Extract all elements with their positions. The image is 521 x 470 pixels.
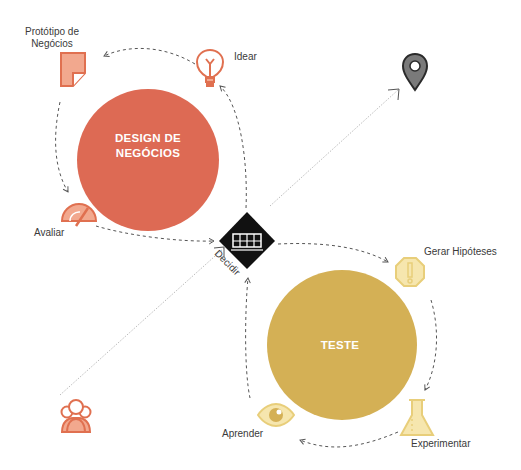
gauge-icon[interactable] (62, 204, 96, 226)
location-pin-icon[interactable] (403, 54, 427, 90)
learn-label: Aprender (222, 428, 264, 439)
lightbulb-icon[interactable] (197, 50, 223, 86)
test-circle: TESTE (267, 270, 417, 420)
hypothesize-label: Gerar Hipóteses (424, 246, 497, 257)
assess-label: Avaliar (34, 227, 65, 238)
flask-icon[interactable] (401, 400, 433, 435)
warning-octagon-icon[interactable] (396, 258, 424, 286)
ideate-label: Idear (234, 51, 257, 62)
business-design-circle: DESIGN DE NEGÓCIOS (77, 89, 219, 231)
prototype-label-line2: Negócios (31, 38, 73, 49)
business-design-title-line1: DESIGN DE (115, 132, 181, 144)
business-design-title-line2: NEGÓCIOS (116, 147, 180, 159)
team-icon[interactable] (62, 400, 91, 432)
business-design-test-cycle-diagram: DESIGN DE NEGÓCIOS TESTE Protótipo de Ne… (0, 0, 521, 470)
prototype-label-line1: Protótipo de (25, 26, 79, 37)
test-title: TESTE (321, 339, 360, 351)
experiment-label: Experimentar (411, 438, 471, 449)
prototype-sheet-icon[interactable] (61, 53, 85, 86)
eye-icon[interactable] (258, 404, 294, 426)
